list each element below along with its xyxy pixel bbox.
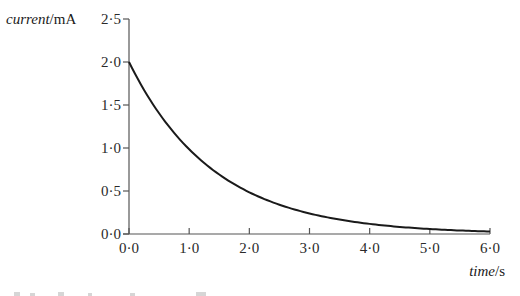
current-decay-curve [129,62,490,232]
clipped-caption-fragment [14,292,206,296]
x-tick-label: 4·0 [360,240,380,256]
x-axis-label: time/s [469,263,505,279]
y-tick-label: 2·5 [101,11,121,27]
x-tick-label: 6·0 [480,240,500,256]
x-tick-label: 2·0 [239,240,259,256]
y-tick-label: 1·5 [101,97,121,113]
y-axis-label-unit: /mA [50,11,77,27]
axes [123,19,490,234]
x-tick-label: 3·0 [300,240,320,256]
x-tick-label: 5·0 [420,240,440,256]
x-tick-label: 1·0 [179,240,199,256]
y-axis-ticks: 0·00·51·01·52·02·5 [101,11,129,242]
y-tick-label: 1·0 [101,140,121,156]
y-axis-label-quantity: current [6,11,50,27]
y-axis-label: current/mA [6,11,76,27]
x-axis-ticks: 0·01·02·03·04·05·06·0 [119,228,500,256]
y-tick-label: 2·0 [101,54,121,70]
y-tick-label: 0·0 [101,226,121,242]
x-axis-label-unit: /s [495,263,505,279]
chart: current/mA time/s 0·00·51·01·52·02·5 0·0… [0,0,520,296]
x-axis-label-quantity: time [469,263,495,279]
y-tick-label: 0·5 [101,183,121,199]
x-tick-label: 0·0 [119,240,139,256]
